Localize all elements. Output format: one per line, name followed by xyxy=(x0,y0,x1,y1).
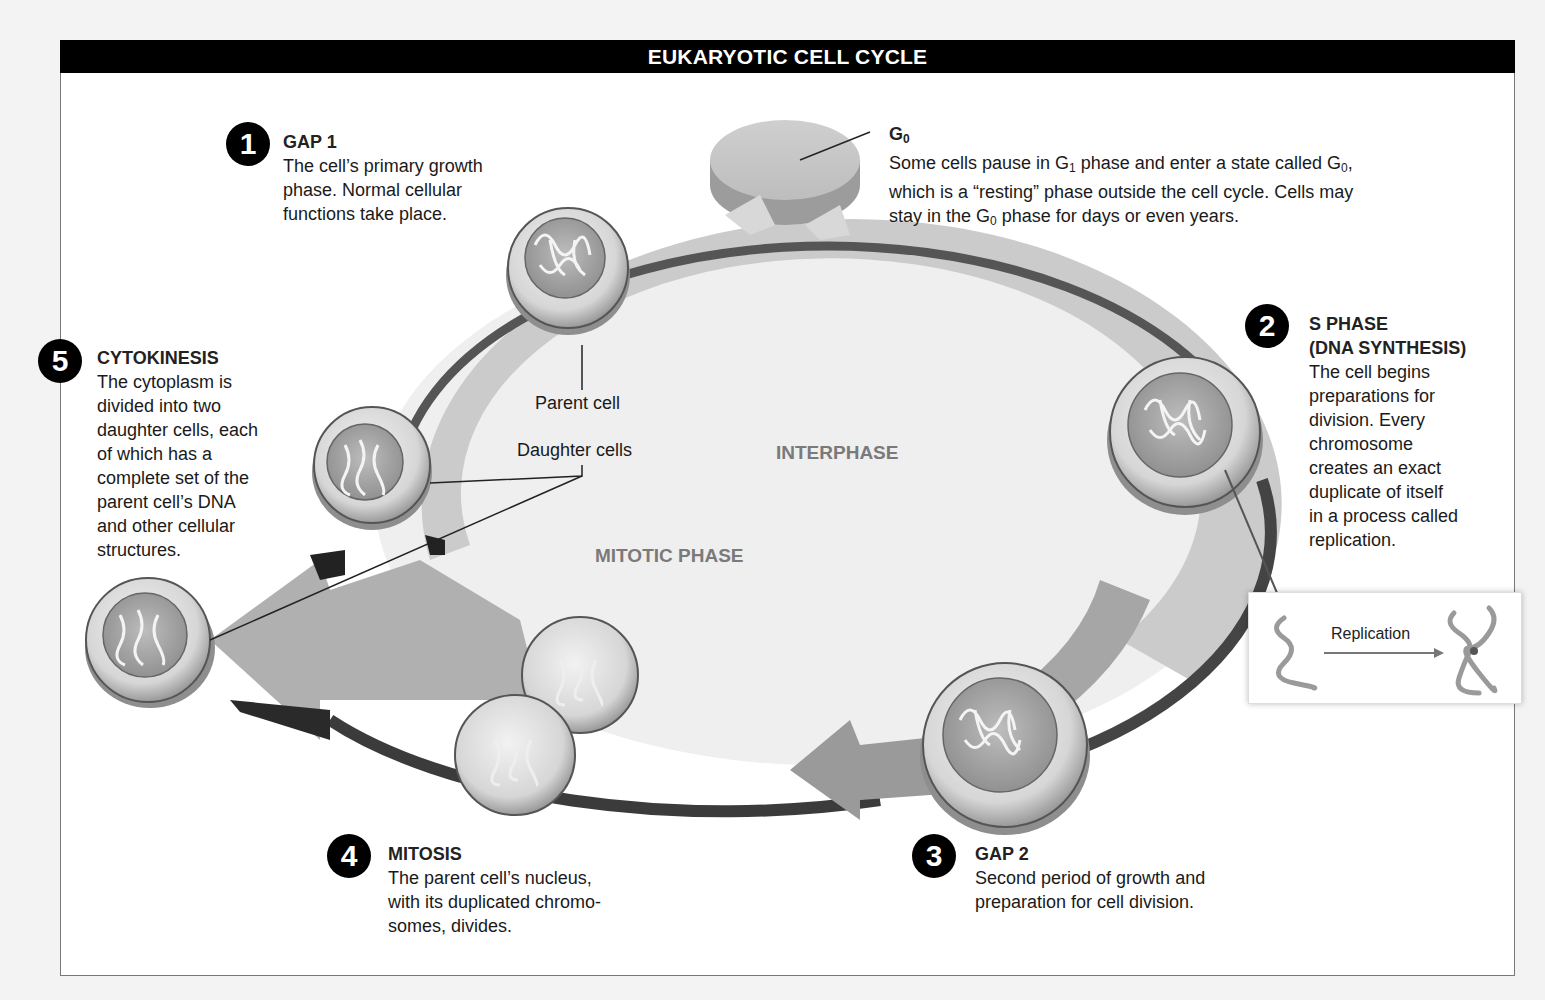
g0-heading: G0 xyxy=(889,122,1449,151)
step-5-heading: CYTOKINESIS xyxy=(97,346,297,370)
cell-gap1 xyxy=(506,208,630,335)
g0-disc xyxy=(710,120,860,240)
step-3-heading: GAP 2 xyxy=(975,842,1275,866)
step-3-gap2: GAP 2 Second period of growth and prepar… xyxy=(975,842,1275,914)
step-4-mitosis: MITOSIS The parent cell’s nucleus, with … xyxy=(388,842,668,938)
step-5-cytokinesis: CYTOKINESIS The cytoplasm is divided int… xyxy=(97,346,297,562)
cell-s-phase xyxy=(1107,357,1263,515)
step-5-badge: 5 xyxy=(38,339,82,383)
step-4-heading: MITOSIS xyxy=(388,842,668,866)
step-3-badge: 3 xyxy=(912,834,956,878)
cell-gap2 xyxy=(920,663,1090,835)
step-1-badge: 1 xyxy=(226,122,270,166)
step-1-heading: GAP 1 xyxy=(283,130,543,154)
daughter-cells-label: Daughter cells xyxy=(517,440,632,461)
cell-daughter-upper xyxy=(312,407,432,530)
mitotic-phase-label: MITOTIC PHASE xyxy=(595,545,744,567)
cell-daughter-lower xyxy=(85,578,215,708)
chromosome-icon xyxy=(1249,593,1521,703)
step-2-badge: 2 xyxy=(1245,304,1289,348)
step-1-gap1: GAP 1 The cell’s primary growth phase. N… xyxy=(283,130,543,226)
interphase-label: INTERPHASE xyxy=(776,442,898,464)
replication-inset: Replication xyxy=(1248,592,1522,704)
step-2-heading: S PHASE xyxy=(1309,312,1519,336)
replication-label: Replication xyxy=(1331,625,1410,643)
g0-description: G0 Some cells pause in G1 phase and ente… xyxy=(889,122,1449,233)
step-4-badge: 4 xyxy=(327,834,371,878)
parent-cell-label: Parent cell xyxy=(535,393,620,414)
step-2-s-phase: S PHASE (DNA SYNTHESIS) The cell begins … xyxy=(1309,312,1519,552)
